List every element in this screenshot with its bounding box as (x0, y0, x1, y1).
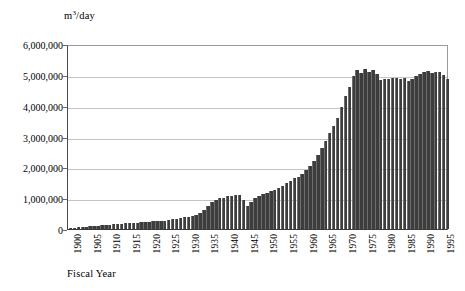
bar (151, 221, 154, 229)
bar (269, 191, 272, 229)
bar (261, 194, 264, 229)
bar (226, 196, 229, 229)
bar (434, 72, 437, 229)
bar (403, 78, 406, 229)
x-axis-tick-label: 1970 (348, 234, 358, 253)
bar (304, 170, 307, 229)
bar (81, 227, 84, 229)
bar (242, 200, 245, 229)
bar (120, 224, 123, 229)
bar (328, 133, 331, 229)
bar (210, 202, 213, 229)
bar (171, 219, 174, 229)
bar (371, 70, 374, 229)
bar (92, 226, 95, 229)
x-axis-tick-labels: 1900190519101915192019251930193519401945… (67, 231, 448, 275)
bar (116, 224, 119, 229)
bar (88, 226, 91, 229)
bar (159, 221, 162, 229)
bar (285, 183, 288, 229)
bar (112, 224, 115, 229)
bar (175, 219, 178, 229)
bar (410, 79, 413, 229)
bar (191, 216, 194, 229)
bar (340, 107, 343, 229)
x-axis-tick-label: 1945 (250, 234, 260, 253)
bar (359, 73, 362, 229)
x-axis-tick-label: 1950 (269, 234, 279, 253)
bar (395, 78, 398, 229)
y-axis-tick-label: 2,000,000 (23, 163, 63, 174)
bar (422, 72, 425, 229)
bar (426, 71, 429, 229)
bar (167, 220, 170, 229)
bar (143, 222, 146, 229)
y-axis-unit-label: m3/day (64, 10, 95, 21)
bar (281, 186, 284, 229)
x-axis-title: Fiscal Year (67, 268, 116, 279)
bar (104, 225, 107, 229)
bar (246, 206, 249, 229)
bar (147, 222, 150, 229)
bar (324, 141, 327, 229)
bar (438, 72, 441, 229)
bar (187, 217, 190, 229)
bar (273, 190, 276, 229)
bar (179, 218, 182, 229)
bar (265, 193, 268, 229)
bar (124, 223, 127, 229)
bar (316, 155, 319, 229)
bar (100, 225, 103, 229)
bar (399, 79, 402, 229)
bar (367, 72, 370, 229)
y-axis-tick-label: 6,000,000 (23, 40, 63, 51)
bar (300, 174, 303, 229)
y-axis-tick-label: 5,000,000 (23, 70, 63, 81)
bar (84, 227, 87, 229)
bar (155, 221, 158, 229)
bar (418, 74, 421, 229)
plot-area (67, 45, 448, 230)
x-axis-tick-label: 1920 (152, 234, 162, 253)
bar (387, 79, 390, 229)
bar (391, 78, 394, 229)
bar (163, 221, 166, 229)
bar (202, 210, 205, 229)
x-axis-tick-label: 1905 (93, 234, 103, 253)
bar (218, 198, 221, 229)
bar (308, 166, 311, 229)
x-axis-tick-label: 1995 (446, 234, 456, 253)
bar (352, 76, 355, 229)
bar (73, 228, 76, 229)
x-axis-tick-label: 1955 (289, 234, 299, 253)
x-axis-tick-label: 1915 (132, 234, 142, 253)
x-axis-tick-label: 1980 (387, 234, 397, 253)
bar (442, 75, 445, 229)
bar-series (68, 46, 447, 229)
x-axis-tick-label: 1925 (171, 234, 181, 253)
bar (249, 202, 252, 229)
x-axis-tick-label: 1990 (426, 234, 436, 253)
bar (297, 177, 300, 229)
bar (238, 195, 241, 229)
bar (320, 148, 323, 229)
y-axis-tick-label: 3,000,000 (23, 132, 63, 143)
bar (108, 225, 111, 229)
y-axis-tick-label: 4,000,000 (23, 101, 63, 112)
y-axis-tick-label: 1,000,000 (23, 194, 63, 205)
y-axis-unit-tail: /day (76, 10, 95, 21)
x-axis-tick-label: 1910 (112, 234, 122, 253)
bar (132, 223, 135, 229)
bar (128, 223, 131, 229)
bar (183, 217, 186, 229)
x-axis-tick-label: 1965 (328, 234, 338, 253)
bar (355, 70, 358, 229)
bar (383, 79, 386, 229)
x-axis-tick-label: 1935 (210, 234, 220, 253)
bar (289, 181, 292, 229)
bar (206, 206, 209, 229)
bar (194, 215, 197, 229)
x-axis-tick-label: 1960 (309, 234, 319, 253)
bar (379, 80, 382, 229)
bar (277, 188, 280, 229)
